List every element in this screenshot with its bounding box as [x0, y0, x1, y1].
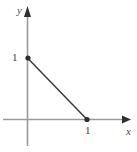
x-axis-label: x: [126, 126, 131, 137]
point-y-intercept: [25, 55, 30, 60]
y-axis-label: y: [17, 5, 22, 16]
line-segment: [28, 58, 88, 120]
y-axis-arrowhead: [24, 6, 31, 17]
point-x-intercept: [84, 117, 89, 122]
x-axis-arrowhead: [122, 116, 131, 124]
y-axis-tick-label-1: 1: [12, 52, 18, 63]
x-axis-tick-label-1: 1: [85, 125, 91, 136]
graph-figure: y x 1 1: [0, 0, 137, 152]
coordinate-plot: [0, 0, 137, 152]
